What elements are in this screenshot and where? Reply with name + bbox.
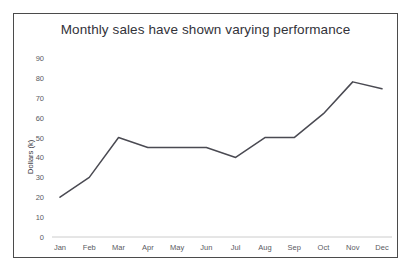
data-series-svg bbox=[14, 14, 399, 259]
series-line-monthly-sales bbox=[60, 82, 382, 197]
chart-frame: Monthly sales have shown varying perform… bbox=[13, 13, 398, 258]
plot-area: Dollars (k) 0102030405060708090 JanFebMa… bbox=[14, 14, 399, 259]
